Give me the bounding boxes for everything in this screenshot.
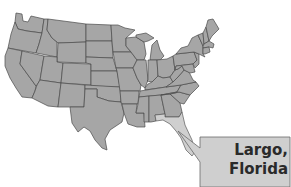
state-florida [155, 112, 195, 156]
state-nebraska [86, 57, 117, 71]
state-colorado [61, 63, 91, 85]
state-new-mexico [58, 83, 85, 107]
state-arkansas [120, 91, 139, 104]
location-city: Largo, [202, 141, 288, 160]
state-wyoming [57, 42, 86, 63]
location-state: Florida [202, 160, 288, 179]
state-connecticut [203, 47, 210, 54]
state-maine [206, 19, 219, 41]
state-south-dakota [86, 41, 113, 58]
location-label: Largo, Florida [202, 141, 288, 179]
state-north-dakota [86, 24, 112, 41]
state-kansas [91, 71, 120, 87]
